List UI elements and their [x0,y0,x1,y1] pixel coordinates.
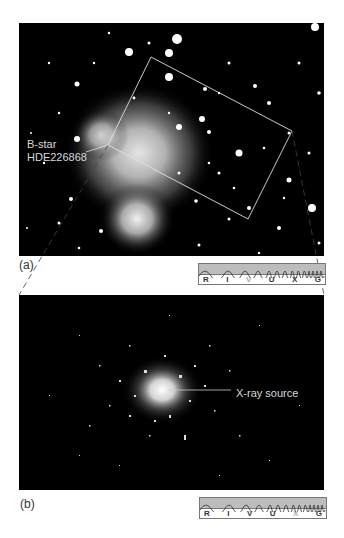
panel-label-b: (b) [20,497,35,511]
bstar-annotation: B-star HDE226868 [27,138,87,164]
band-r: R [203,275,209,284]
band-g: G [316,509,322,518]
band-r: R [204,509,210,518]
band-v: V [246,275,251,284]
band-g: G [315,275,321,284]
band-u: U [270,509,276,518]
band-x: X [292,275,297,284]
xray-source-annotation: X-ray source [236,387,298,400]
spectrum-indicator-b: R I V U X G [199,497,327,519]
wave-icon [200,498,326,509]
band-x: X [293,509,298,518]
wave-icon [199,264,325,275]
band-i: I [227,509,229,518]
band-u: U [269,275,275,284]
spectrum-indicator-a: R I V U X G [198,263,326,285]
band-i: I [226,275,228,284]
bstar-label-line2: HDE226868 [27,151,87,164]
band-v: V [247,509,252,518]
panel-label-a: (a) [19,258,34,272]
bstar-label-line1: B-star [27,138,87,151]
